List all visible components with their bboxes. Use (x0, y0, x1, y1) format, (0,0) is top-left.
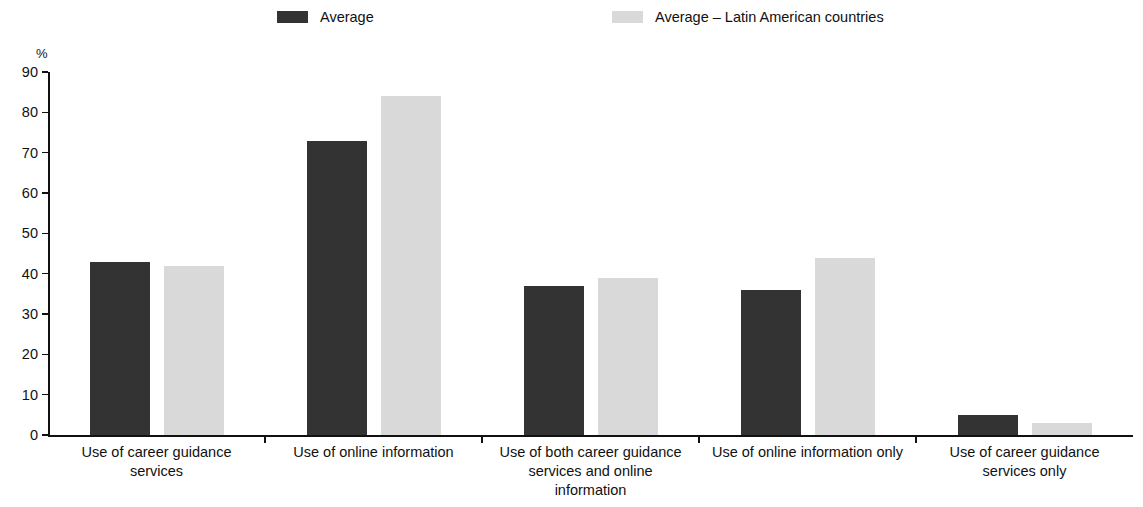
x-axis-tick (698, 435, 700, 443)
y-axis-tick (42, 273, 48, 275)
bar-0-3 (741, 290, 801, 435)
y-axis-tick-label: 40 (4, 267, 38, 281)
x-axis-category-label-line: Use of career guidance (48, 443, 265, 462)
y-axis-tick (42, 192, 48, 194)
bar-0-0 (90, 262, 150, 435)
y-axis-tick (42, 394, 48, 396)
y-axis-tick-label: 20 (4, 347, 38, 361)
x-axis-category-label-line: Use of online information only (699, 443, 916, 462)
y-axis-line (48, 72, 50, 435)
x-axis-category-label: Use of career guidanceservices (48, 443, 265, 481)
x-axis-category-label: Use of online information only (699, 443, 916, 462)
legend-label-average-latin-american-countries: Average – Latin American countries (655, 9, 884, 25)
x-axis-category-label-line: information (482, 481, 699, 500)
y-axis-tick-label: 50 (4, 226, 38, 240)
y-axis-tick-label: 30 (4, 307, 38, 321)
bar-0-4 (958, 415, 1018, 435)
x-axis-tick (481, 435, 483, 443)
y-axis-tick-label: 70 (4, 146, 38, 160)
x-axis-category-label: Use of both career guidanceservices and … (482, 443, 699, 500)
chart-legend: Average Average – Latin American countri… (0, 0, 1143, 34)
bar-1-3 (815, 258, 875, 435)
y-axis-tick-label: 0 (4, 428, 38, 442)
y-axis-tick-label: 60 (4, 186, 38, 200)
x-axis-category-label-line: Use of career guidance (916, 443, 1133, 462)
bar-1-4 (1032, 423, 1092, 435)
plot-area: 0102030405060708090 (48, 72, 1133, 435)
y-axis-unit-label: % (36, 46, 48, 61)
legend-item-average-latin-american-countries: Average – Latin American countries (612, 8, 884, 26)
bar-0-1 (307, 141, 367, 435)
legend-swatch-average (277, 11, 308, 23)
x-axis-category-label: Use of online information (265, 443, 482, 462)
y-axis-tick-label: 90 (4, 65, 38, 79)
bar-1-0 (164, 266, 224, 435)
y-axis-tick-label: 10 (4, 388, 38, 402)
x-axis-category-label: Use of career guidanceservices only (916, 443, 1133, 481)
x-axis-tick (264, 435, 266, 443)
legend-swatch-average-latin-american-countries (612, 11, 643, 23)
x-axis-category-label-line: services only (916, 462, 1133, 481)
y-axis-tick-label: 80 (4, 105, 38, 119)
y-axis-tick (42, 112, 48, 114)
legend-item-average: Average (277, 8, 374, 26)
bar-chart: Average Average – Latin American countri… (0, 0, 1143, 507)
legend-label-average: Average (320, 9, 374, 25)
y-axis-tick (42, 152, 48, 154)
y-axis-tick (42, 434, 48, 436)
y-axis-tick (42, 71, 48, 73)
y-axis-tick (42, 313, 48, 315)
bar-1-2 (598, 278, 658, 435)
x-axis-category-label-line: services and online (482, 462, 699, 481)
bar-0-2 (524, 286, 584, 435)
x-axis-category-label-line: Use of both career guidance (482, 443, 699, 462)
y-axis-tick (42, 354, 48, 356)
y-axis-tick (42, 233, 48, 235)
x-axis-tick (915, 435, 917, 443)
x-axis-category-label-line: services (48, 462, 265, 481)
x-axis-category-labels: Use of career guidanceservicesUse of onl… (48, 443, 1133, 507)
bar-1-1 (381, 96, 441, 435)
x-axis-category-label-line: Use of online information (265, 443, 482, 462)
x-axis-line (48, 435, 1133, 437)
